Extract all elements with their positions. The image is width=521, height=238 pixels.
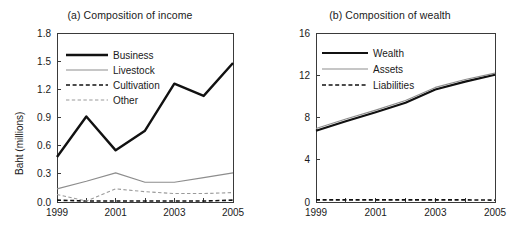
y-tick-label: 12 <box>299 70 311 81</box>
legend-label-wealth: Wealth <box>373 48 404 59</box>
panel-composition-of-income: (a) Composition of income Baht (millions… <box>0 0 260 238</box>
y-tick-label: 0 <box>304 197 310 208</box>
figure-two-panel-line-charts: (a) Composition of income Baht (millions… <box>0 0 521 238</box>
y-tick-label: 1.8 <box>37 28 51 39</box>
y-tick-label: 0.0 <box>37 197 51 208</box>
y-tick-label: 1.2 <box>37 84 51 95</box>
legend-label-cultivation: Cultivation <box>113 80 160 91</box>
x-tick-label: 1999 <box>305 207 328 218</box>
legend-label-liabilities: Liabilities <box>373 80 414 91</box>
legend-label-livestock: Livestock <box>113 65 156 76</box>
x-tick-label: 2005 <box>222 207 245 218</box>
x-tick-label: 2003 <box>163 207 186 218</box>
legend-label-other: Other <box>113 95 139 106</box>
x-tick-label: 2001 <box>365 207 388 218</box>
x-tick-label: 2003 <box>424 207 447 218</box>
panel-composition-of-wealth: (b) Composition of wealth 04812161999200… <box>260 0 520 238</box>
y-tick-label: 4 <box>304 154 310 165</box>
y-tick-label: 1.5 <box>37 56 51 67</box>
y-tick-label: 0.9 <box>37 112 51 123</box>
legend-label-business: Business <box>113 50 154 61</box>
x-tick-label: 2001 <box>105 207 128 218</box>
x-tick-label: 1999 <box>46 207 69 218</box>
series-line-cultivation <box>57 200 233 201</box>
y-tick-label: 16 <box>299 28 311 39</box>
panel-a-plot: 0.00.30.60.91.21.51.81999200120032005Bus… <box>0 0 260 238</box>
series-line-livestock <box>57 173 233 189</box>
y-tick-label: 0.6 <box>37 140 51 151</box>
series-line-business <box>57 63 233 157</box>
x-tick-label: 2005 <box>484 207 507 218</box>
legend: WealthAssetsLiabilities <box>322 48 414 91</box>
y-tick-label: 8 <box>304 112 310 123</box>
panel-b-plot: 04812161999200120032005WealthAssetsLiabi… <box>260 0 521 238</box>
legend: BusinessLivestockCultivationOther <box>66 50 160 106</box>
y-tick-label: 0.3 <box>37 168 51 179</box>
legend-label-assets: Assets <box>373 64 403 75</box>
